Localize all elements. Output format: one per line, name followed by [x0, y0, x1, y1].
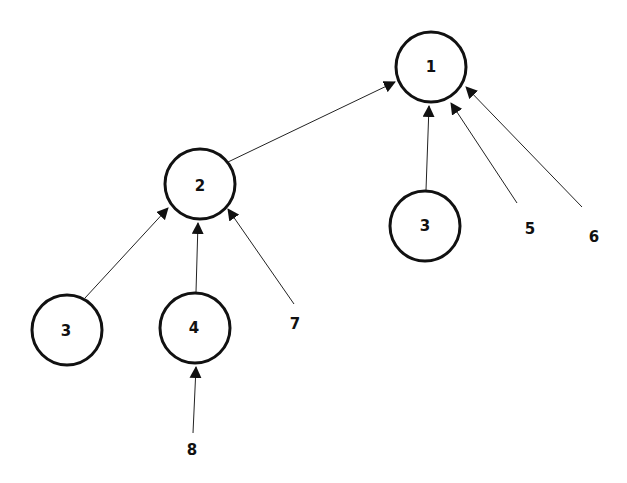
node-label: 2 [195, 177, 205, 195]
node-3-left: 3 [32, 295, 102, 365]
node-label: 1 [426, 58, 436, 76]
leaf-label-7: 7 [290, 315, 300, 333]
edge-3-to-2 [85, 208, 168, 298]
edge-6-to-1 [466, 87, 582, 207]
leaf-label-8: 8 [187, 441, 197, 459]
edge-8-to-4 [193, 367, 196, 433]
edge-2-to-1 [228, 82, 395, 162]
node-label: 4 [189, 319, 199, 337]
node-label: 3 [61, 322, 71, 340]
node-3-right: 3 [390, 191, 460, 261]
node-1: 1 [396, 32, 466, 102]
leaf-label-6: 6 [589, 228, 599, 246]
leaf-label-5: 5 [525, 220, 535, 238]
tree-diagram: 1 2 3 3 4 5 6 7 8 [0, 0, 627, 483]
edge-7-to-2 [228, 209, 294, 304]
edge-5-to-1 [451, 103, 517, 203]
edge-3-to-1 [426, 106, 429, 190]
edge-4-to-2 [196, 223, 198, 292]
node-4: 4 [160, 293, 230, 363]
node-2: 2 [165, 149, 235, 219]
node-label: 3 [420, 217, 430, 235]
